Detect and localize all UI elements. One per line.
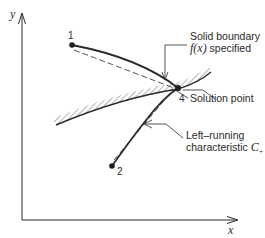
solid-boundary [52,66,211,125]
characteristic-annotation: Left–running characteristic C+ [186,129,264,158]
point-1-label: 1 [68,30,74,41]
x-axis-label: x [228,224,233,236]
characteristic-1-to-4 [72,45,178,88]
boundary-annotation: Solid boundary f(x) specified [190,30,260,54]
y-axis [19,13,26,220]
point-4-label: 4 [179,93,185,104]
characteristic-annotation-line2: characteristic C+ [186,141,264,158]
point-1-marker [69,42,75,48]
point-2-marker [109,163,115,169]
fx-symbol: f(x) [190,41,207,55]
point-2-label: 2 [117,166,123,177]
c-plus-symbol: C+ [251,140,264,154]
boundary-leader [162,45,187,80]
solution-point-annotation: Solution point [190,92,254,104]
y-axis-label: y [10,8,15,20]
boundary-annotation-line2: f(x) specified [190,42,260,54]
characteristic-leader [144,120,183,138]
x-axis [22,217,238,224]
